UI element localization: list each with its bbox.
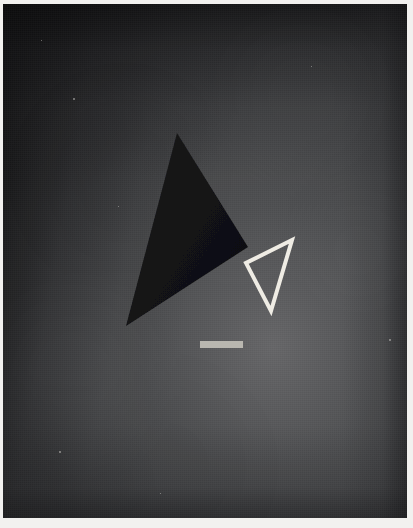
large-dark-triangle — [126, 133, 248, 326]
artwork-image: Abstract Composition with Triangles — [0, 0, 413, 528]
small-white-outline-triangle — [246, 240, 292, 311]
painting-canvas — [3, 4, 407, 518]
shapes-layer — [3, 4, 407, 518]
horizontal-light-bar — [200, 341, 243, 348]
shapes-svg-canvas — [3, 4, 407, 518]
